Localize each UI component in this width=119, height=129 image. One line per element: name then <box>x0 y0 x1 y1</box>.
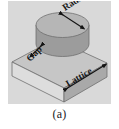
radius-label: Radius <box>61 1 91 13</box>
disk-top-face <box>36 13 89 38</box>
figure-image-panel: Radius Gap Lattice <box>8 1 111 104</box>
unit-cell-3d-diagram: Radius Gap Lattice <box>8 1 111 104</box>
figure-container: Radius Gap Lattice (a) <box>0 0 119 129</box>
figure-caption: (a) <box>0 107 119 122</box>
